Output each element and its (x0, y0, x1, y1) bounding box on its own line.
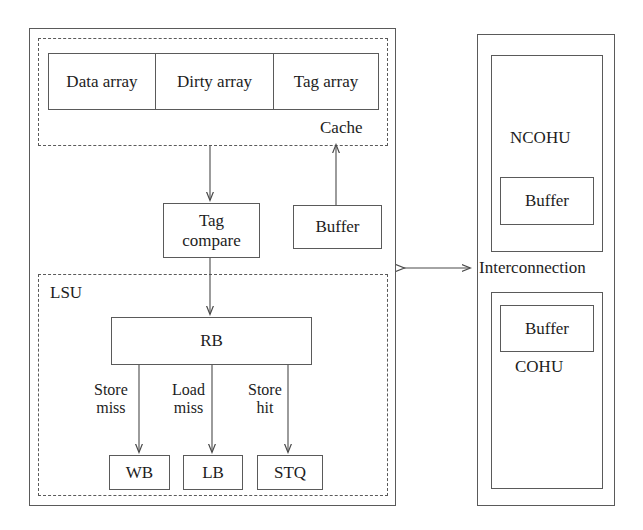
load-miss-label-line1: Load (172, 381, 205, 399)
load-miss-label: Load miss (172, 381, 205, 418)
data-array-label: Data array (66, 72, 137, 91)
wb-box[interactable]: WB (109, 455, 170, 490)
rb-box[interactable]: RB (111, 317, 312, 365)
stq-box[interactable]: STQ (257, 455, 323, 490)
ncohu-buffer-box[interactable]: Buffer (500, 177, 594, 225)
left-buffer-label: Buffer (315, 217, 359, 236)
ncohu-label: NCOHU (510, 128, 570, 148)
rb-label: RB (200, 331, 223, 350)
tag-array-box[interactable]: Tag array (273, 53, 379, 110)
cache-group-label: Cache (320, 118, 362, 138)
cohu-buffer-box[interactable]: Buffer (500, 305, 594, 352)
lb-box[interactable]: LB (183, 455, 243, 490)
tag-array-label: Tag array (294, 72, 358, 91)
stq-label: STQ (274, 463, 306, 482)
tag-compare-label-line1: Tag (199, 211, 224, 230)
left-buffer-box[interactable]: Buffer (293, 205, 382, 249)
tag-compare-box[interactable]: Tag compare (163, 203, 260, 258)
diagram-canvas: Data array Dirty array Tag array Cache T… (0, 0, 643, 530)
cohu-buffer-label: Buffer (525, 319, 569, 338)
store-miss-label: Store miss (94, 381, 128, 418)
store-miss-label-line2: miss (94, 399, 128, 417)
store-hit-label-line2: hit (248, 399, 282, 417)
interconnection-label: Interconnection (479, 258, 586, 278)
lsu-group-label: LSU (50, 283, 82, 303)
store-miss-label-line1: Store (94, 381, 128, 399)
dirty-array-label: Dirty array (177, 72, 252, 91)
store-hit-label-line1: Store (248, 381, 282, 399)
wb-label: WB (126, 463, 153, 482)
tag-compare-label-line2: compare (182, 231, 241, 250)
cohu-label: COHU (515, 357, 563, 377)
ncohu-buffer-label: Buffer (525, 191, 569, 210)
store-hit-label: Store hit (248, 381, 282, 418)
data-array-box[interactable]: Data array (48, 53, 156, 110)
lb-label: LB (202, 463, 224, 482)
load-miss-label-line2: miss (172, 399, 205, 417)
dirty-array-box[interactable]: Dirty array (155, 53, 274, 110)
